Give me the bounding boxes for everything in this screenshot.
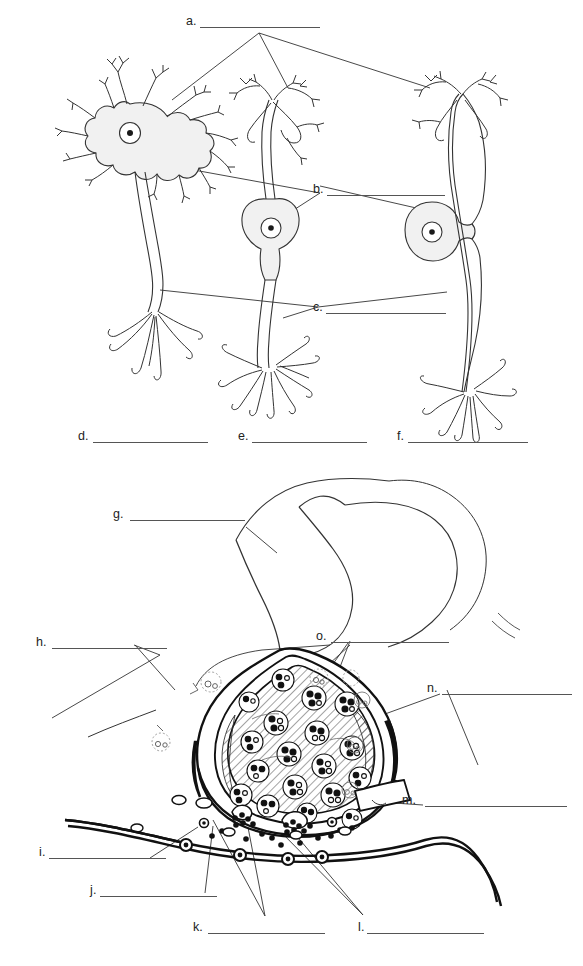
answer-blank-g[interactable] [130, 520, 245, 521]
label-o: o. [316, 630, 327, 643]
synapse-figure [52, 479, 520, 916]
multipolar-neuron [55, 56, 238, 380]
label-l: l. [358, 921, 364, 934]
answer-blank-f[interactable] [408, 442, 528, 443]
answer-blank-b[interactable] [327, 195, 445, 196]
label-b: b. [313, 183, 324, 196]
label-k: k. [193, 921, 203, 934]
answer-blank-j[interactable] [100, 896, 217, 897]
answer-blank-o[interactable] [331, 642, 449, 643]
label-d: d. [78, 430, 89, 443]
label-h: h. [36, 636, 47, 649]
diagram-canvas [0, 0, 583, 966]
label-i: i. [39, 846, 45, 859]
answer-blank-a[interactable] [200, 27, 320, 28]
label-e: e. [238, 430, 249, 443]
answer-blank-h[interactable] [52, 648, 167, 649]
answer-blank-n[interactable] [442, 694, 572, 695]
label-g: g. [113, 508, 124, 521]
label-m: m. [402, 794, 416, 807]
worksheet-page: a. b. c. d. e. f. g. h. i. j. k. l. m. n… [0, 0, 583, 966]
answer-blank-e[interactable] [252, 442, 367, 443]
answer-blank-d[interactable] [93, 442, 208, 443]
unipolar-neuron [405, 71, 516, 442]
answer-blank-c[interactable] [326, 313, 446, 314]
bipolar-neuron [219, 74, 324, 418]
label-f: f. [397, 430, 404, 443]
label-n: n. [427, 682, 438, 695]
label-c: c. [313, 301, 323, 314]
label-a: a. [186, 15, 197, 28]
label-j: j. [90, 884, 96, 897]
answer-blank-k[interactable] [208, 933, 325, 934]
answer-blank-l[interactable] [367, 933, 484, 934]
answer-blank-i[interactable] [49, 858, 166, 859]
answer-blank-m[interactable] [425, 806, 567, 807]
